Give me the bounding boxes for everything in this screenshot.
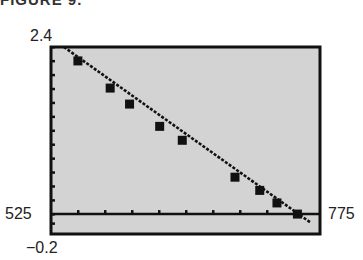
calculator-graph-screen	[0, 0, 363, 260]
x-tick	[158, 210, 161, 214]
data-point-marker	[125, 100, 134, 109]
x-tick	[131, 210, 134, 214]
data-point-marker	[230, 173, 239, 182]
data-point-marker	[178, 136, 187, 145]
data-point-marker	[73, 56, 82, 65]
data-point-marker	[272, 198, 281, 207]
x-tick	[104, 210, 107, 214]
data-point-marker	[255, 186, 264, 195]
x-tick	[212, 210, 215, 214]
x-tick	[239, 210, 242, 214]
x-tick	[266, 210, 269, 214]
data-point-marker	[155, 122, 164, 131]
data-point-marker	[106, 84, 115, 93]
data-point-marker	[293, 210, 302, 219]
x-tick	[185, 210, 188, 214]
x-tick	[77, 210, 80, 214]
